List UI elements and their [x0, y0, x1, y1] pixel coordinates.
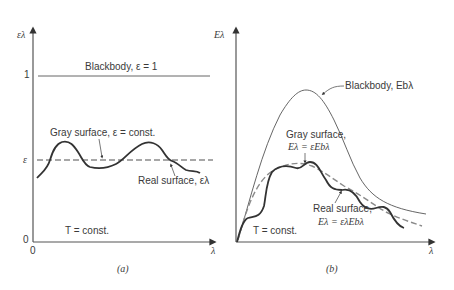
- panel-a-y-axis-label: ελ: [17, 29, 26, 40]
- panel-b-x-axis-label: λ: [428, 245, 434, 256]
- panel-a: ελ 1 ε 0 0 λ Blackbody, ε = 1 Gray surfa…: [17, 29, 216, 275]
- panel-b-caption: (b): [326, 263, 338, 275]
- panel-a-tick-zero-y: 0: [23, 234, 29, 245]
- panel-a-x-axis-label: λ: [210, 245, 216, 256]
- panel-b-gray-label-line2: Eλ = εEbλ: [287, 141, 330, 152]
- panel-a-tick-epsilon: ε: [23, 154, 27, 165]
- panel-b-blackbody-leader: [323, 86, 344, 94]
- panel-a-tick-zero-x: 0: [30, 245, 36, 256]
- panel-a-blackbody-label: Blackbody, ε = 1: [85, 61, 158, 72]
- panel-a-temperature-label: T = const.: [65, 225, 109, 236]
- panel-b: Eλ λ Blackbody, Ebλ Gray surface, Eλ = ε…: [213, 29, 434, 275]
- panel-b-y-axis-label: Eλ: [213, 29, 225, 40]
- emissivity-diagram: ελ 1 ε 0 0 λ Blackbody, ε = 1 Gray surfa…: [0, 0, 454, 290]
- panel-a-real-label: Real surface, ελ: [138, 175, 209, 186]
- panel-b-temperature-label: T = const.: [253, 225, 297, 236]
- panel-b-real-label-line1: Real surface,: [313, 203, 372, 214]
- panel-b-real-leader: [335, 192, 341, 203]
- panel-a-gray-leader: [99, 139, 102, 157]
- panel-a-caption: (a): [117, 263, 129, 275]
- panel-a-tick-one: 1: [24, 69, 30, 80]
- panel-b-real-label-line2: Eλ = ελEbλ: [317, 216, 365, 227]
- panel-b-blackbody-label: Blackbody, Ebλ: [345, 80, 413, 91]
- panel-b-gray-label-line1: Gray surface,: [286, 129, 346, 140]
- panel-a-gray-label: Gray surface, ε = const.: [50, 127, 155, 138]
